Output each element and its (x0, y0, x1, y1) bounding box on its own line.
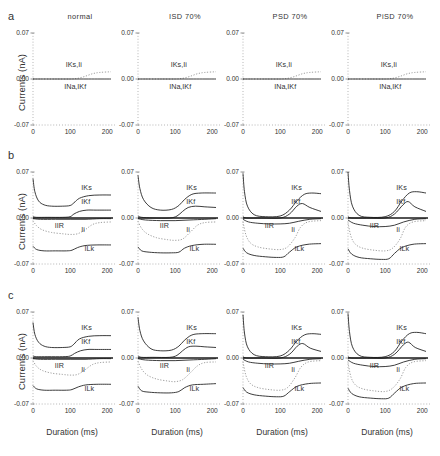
y-tick-3-0: 0.07 (213, 29, 239, 36)
trace-label-c-4-2: IIR (370, 361, 379, 370)
trace-IKs (243, 315, 321, 357)
trace-Ii (243, 221, 321, 250)
plot-cell-a-4 (348, 33, 426, 125)
trace-label-b-2-1: IKf (186, 197, 195, 206)
trace-Ii (348, 221, 426, 251)
trace-IKf (138, 206, 216, 218)
trace-label-b-3-2: IIR (265, 221, 274, 230)
trace-label-b-3-3: Ii (291, 225, 295, 234)
trace-IKs (138, 317, 216, 351)
trace-label-b-3-4: ILk (294, 244, 304, 253)
trace-label-b-1-3: Ii (81, 225, 85, 234)
trace-Ii (33, 361, 111, 375)
x-tick-3-0: 0 (231, 128, 255, 135)
trace-IKs-Ii (348, 72, 426, 79)
y-tick-2-0: 0.07 (108, 29, 134, 36)
trace-IKf (243, 204, 321, 219)
trace-label-a-3-0: IKs,Ii (276, 60, 292, 69)
trace-ILk (243, 383, 321, 397)
x-tick-1-1: 100 (58, 128, 82, 135)
trace-ILk (33, 245, 111, 251)
trace-label-b-2-0: IKs (186, 183, 196, 192)
trace-label-c-2-0: IKs (186, 323, 196, 332)
trace-label-b-1-1: IKf (81, 197, 90, 206)
trace-label-b-2-2: IIR (160, 221, 169, 230)
y-tick-2-1: 0.00 (108, 75, 134, 82)
trace-label-c-2-2: IIR (160, 361, 169, 370)
y-axis-label: Currents (nA) (16, 54, 27, 111)
trace-IKs (348, 313, 426, 357)
x-tick-1-0: 0 (21, 407, 45, 414)
y-tick-2-1: 0.00 (108, 214, 134, 221)
trace-label-b-2-4: ILk (189, 244, 199, 253)
x-tick-1-0: 0 (21, 128, 45, 135)
column-title-4: PiSD 70% (356, 12, 434, 21)
x-tick-4-0: 0 (336, 267, 360, 274)
y-tick-3-1: 0.00 (213, 75, 239, 82)
trace-label-c-3-2: IIR (265, 361, 274, 370)
trace-IIR (348, 219, 426, 227)
trace-label-b-3-0: IKs (291, 183, 301, 192)
plot-cell-c-1 (33, 312, 111, 404)
trace-IKs (348, 172, 426, 217)
trace-label-c-2-4: ILk (189, 384, 199, 393)
y-tick-1-1: 0.00 (3, 354, 29, 361)
y-tick-1-2: -0.07 (3, 400, 29, 407)
trace-label-a-4-0: IKs,Ii (381, 60, 397, 69)
trace-ILk (243, 244, 321, 258)
plot-cell-c-3 (243, 312, 321, 404)
trace-IKs (33, 323, 111, 348)
x-tick-3-1: 100 (268, 128, 292, 135)
x-axis-label-2: Duration (ms) (128, 427, 226, 437)
trace-IKs-Ii (243, 72, 321, 79)
trace-IKs-Ii (33, 72, 111, 79)
trace-label-c-2-1: IKf (186, 337, 195, 346)
x-tick-1-2: 200 (95, 407, 119, 414)
plot-cell-b-2 (138, 172, 216, 264)
x-axis-label-1: Duration (ms) (23, 427, 121, 437)
column-title-2: ISD 70% (146, 12, 224, 21)
trace-label-b-4-4: ILk (399, 244, 409, 253)
x-tick-1-1: 100 (58, 267, 82, 274)
trace-label-b-3-1: IKf (291, 197, 300, 206)
y-tick-4-2: -0.07 (318, 400, 344, 407)
trace-IKs (138, 175, 216, 210)
trace-IIR (138, 359, 216, 361)
plot-area-b-1 (33, 172, 111, 264)
trace-label-c-3-4: ILk (294, 384, 304, 393)
x-tick-2-0: 0 (126, 267, 150, 274)
trace-label-a-3-1: INa,IKf (274, 82, 296, 91)
plot-area-c-3 (243, 312, 321, 404)
x-tick-3-2: 200 (305, 128, 329, 135)
y-tick-3-0: 0.07 (213, 308, 239, 315)
x-tick-4-1: 100 (373, 128, 397, 135)
trace-ILk (138, 384, 216, 393)
x-tick-2-2: 200 (200, 267, 224, 274)
trace-Ii (138, 361, 216, 381)
trace-IKs-Ii (138, 72, 216, 79)
y-tick-1-0: 0.07 (3, 308, 29, 315)
x-tick-4-1: 100 (373, 267, 397, 274)
plot-area-a-3 (243, 33, 321, 125)
trace-IKf (33, 210, 111, 217)
plot-cell-a-1 (33, 33, 111, 125)
trace-Ii (138, 221, 216, 240)
x-tick-2-1: 100 (163, 407, 187, 414)
trace-label-a-2-0: IKs,Ii (171, 60, 187, 69)
y-tick-1-1: 0.00 (3, 75, 29, 82)
y-tick-3-2: -0.07 (213, 260, 239, 267)
y-tick-4-1: 0.00 (318, 354, 344, 361)
y-tick-3-2: -0.07 (213, 400, 239, 407)
trace-label-c-1-3: Ii (81, 365, 85, 374)
trace-label-b-4-1: IKf (396, 197, 405, 206)
x-tick-3-2: 200 (305, 267, 329, 274)
trace-label-c-3-0: IKs (291, 323, 301, 332)
y-tick-1-0: 0.07 (3, 168, 29, 175)
y-tick-2-2: -0.07 (108, 260, 134, 267)
y-tick-3-1: 0.00 (213, 214, 239, 221)
trace-IKf (243, 343, 321, 358)
trace-IKf (33, 349, 111, 356)
plot-area-a-1 (33, 33, 111, 125)
y-tick-4-0: 0.07 (318, 168, 344, 175)
y-tick-2-1: 0.00 (108, 354, 134, 361)
